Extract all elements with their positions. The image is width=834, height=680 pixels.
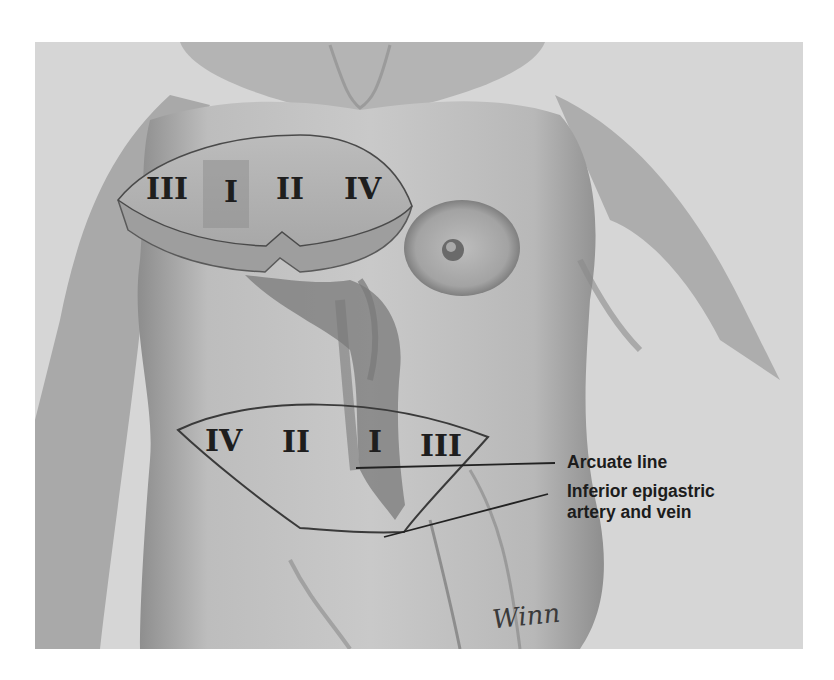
upper-zone-ii: II: [276, 171, 304, 206]
label-inferior-epigastric-2: artery and vein: [567, 502, 692, 523]
lower-zone-iii: III: [420, 428, 462, 463]
torso-illustration: III I II IV IV II I III: [0, 0, 834, 680]
lower-zone-i: I: [368, 424, 382, 459]
lower-zone-iv: IV: [205, 423, 243, 458]
upper-zone-iii: III: [146, 171, 188, 206]
upper-zone-iv: IV: [344, 171, 382, 206]
upper-zone-i: I: [224, 174, 238, 209]
neck: [180, 42, 545, 110]
label-inferior-epigastric-1: Inferior epigastric: [567, 481, 715, 502]
label-arcuate-line: Arcuate line: [567, 452, 667, 473]
lower-zone-ii: II: [282, 424, 310, 459]
